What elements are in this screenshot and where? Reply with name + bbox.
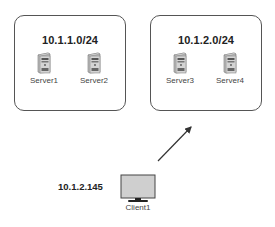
client-label: Client1 (118, 203, 158, 212)
monitor-icon (119, 174, 157, 202)
client-ip-label: 10.1.2.145 (58, 181, 103, 192)
client-node[interactable]: Client1 (118, 174, 158, 212)
